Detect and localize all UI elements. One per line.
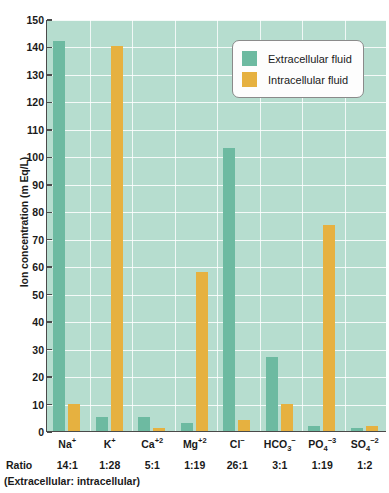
bar-extracellular	[53, 41, 65, 431]
y-axis-tick-label: 10	[32, 399, 47, 411]
y-axis-tick: 130	[26, 69, 47, 81]
x-axis-label: Mg+2	[174, 436, 217, 450]
y-axis-title: Ion concentration (m Eq/L)	[18, 112, 30, 332]
y-axis-tick: 20	[32, 371, 47, 383]
ratio-value: 5:1	[131, 459, 174, 471]
bar-intracellular	[153, 428, 165, 431]
y-axis-tick-label: 40	[32, 316, 47, 328]
legend-item-extracellular: Extracellular fluid	[242, 48, 352, 69]
ratio-row-label: Ratio	[6, 459, 32, 471]
y-axis-tick: 30	[32, 344, 47, 356]
y-axis-tick-mark	[47, 266, 52, 268]
y-axis-tick: 50	[32, 289, 47, 301]
y-axis-tick: 90	[32, 179, 47, 191]
legend-swatch-intracellular	[242, 72, 257, 87]
x-axis-label: HCO3−	[259, 436, 302, 453]
x-axis-labels: Na+K+Ca+2Mg+2Cl−HCO3−PO4−3SO4−2	[46, 436, 386, 454]
bar-extracellular	[181, 423, 193, 431]
x-axis-label: SO4−2	[344, 436, 387, 453]
bar-group	[132, 20, 175, 431]
y-axis-tick-label: 20	[32, 371, 47, 383]
y-axis-tick: 60	[32, 261, 47, 273]
bar-extracellular	[266, 357, 278, 431]
y-axis-tick-mark	[47, 404, 52, 406]
ratio-value: 14:1	[46, 459, 89, 471]
y-axis-tick: 110	[27, 124, 47, 136]
y-axis-tick-label: 140	[26, 41, 47, 53]
chart-legend: Extracellular fluid Intracellular fluid	[232, 40, 364, 98]
legend-swatch-extracellular	[242, 51, 257, 66]
bar-group	[175, 20, 218, 431]
bar-group	[90, 20, 133, 431]
y-axis-tick-label: 30	[32, 344, 47, 356]
legend-label-extracellular: Extracellular fluid	[268, 53, 352, 65]
bar-intracellular	[238, 420, 250, 431]
y-axis-tick-mark	[47, 349, 52, 351]
y-axis-tick-mark	[47, 431, 52, 433]
y-axis-tick: 150	[26, 14, 47, 26]
y-axis-tick-mark	[47, 47, 52, 49]
y-axis-tick-label: 50	[32, 289, 47, 301]
y-axis-tick-mark	[47, 19, 52, 21]
y-axis-tick-mark	[47, 294, 52, 296]
y-axis-tick: 40	[32, 316, 47, 328]
y-axis-tick: 70	[32, 234, 47, 246]
y-axis-tick-label: 70	[32, 234, 47, 246]
x-axis-label: Na+	[46, 436, 89, 450]
y-axis-tick-label: 130	[26, 69, 47, 81]
x-axis-label: Cl−	[216, 436, 259, 450]
y-axis-tick: 10	[32, 399, 47, 411]
bar-extracellular	[223, 148, 235, 431]
x-axis-label: PO4−3	[301, 436, 344, 453]
bar-extracellular	[351, 428, 363, 431]
y-axis-tick: 80	[32, 206, 47, 218]
y-axis-tick-mark	[47, 212, 52, 214]
y-axis-tick-label: 100	[26, 151, 47, 163]
y-axis-tick-mark	[47, 376, 52, 378]
legend-label-intracellular: Intracellular fluid	[268, 74, 348, 86]
y-axis-tick-label: 150	[26, 14, 47, 26]
x-axis-label: K+	[89, 436, 132, 450]
y-axis-tick-label: 110	[27, 124, 47, 136]
bar-intracellular	[366, 426, 378, 431]
y-axis-tick-mark	[47, 129, 52, 131]
bar-group	[47, 20, 90, 431]
ratio-value: 3:1	[259, 459, 302, 471]
ratio-value: 26:1	[216, 459, 259, 471]
bar-intracellular	[196, 272, 208, 431]
y-axis-tick-label: 60	[32, 261, 47, 273]
ratio-value: 1:19	[174, 459, 217, 471]
ratio-value: 1:28	[89, 459, 132, 471]
ratio-value: 1:19	[301, 459, 344, 471]
y-axis-tick-label: 80	[32, 206, 47, 218]
y-axis-tick-mark	[47, 321, 52, 323]
y-axis-tick-mark	[47, 74, 52, 76]
bar-intracellular	[68, 404, 80, 431]
y-axis-tick-mark	[47, 102, 52, 104]
y-axis-tick-mark	[47, 184, 52, 186]
y-axis-tick: 120	[26, 96, 47, 108]
y-axis-tick-label: 120	[26, 96, 47, 108]
bar-intracellular	[323, 225, 335, 431]
bar-intracellular	[111, 46, 123, 431]
ratio-value: 1:2	[344, 459, 387, 471]
ratio-caption: (Extracellular: intracellular)	[4, 475, 140, 487]
y-axis-tick: 100	[26, 151, 47, 163]
legend-item-intracellular: Intracellular fluid	[242, 69, 352, 90]
bar-extracellular	[308, 426, 320, 431]
ion-concentration-chart: Ion concentration (m Eq/L) 0102030405060…	[0, 0, 389, 493]
y-axis-tick-mark	[47, 157, 52, 159]
y-axis-tick-mark	[47, 239, 52, 241]
y-axis-tick-label: 90	[32, 179, 47, 191]
x-axis-label: Ca+2	[131, 436, 174, 450]
y-axis-tick: 140	[26, 41, 47, 53]
bar-intracellular	[281, 404, 293, 431]
bar-extracellular	[96, 417, 108, 431]
bar-extracellular	[138, 417, 150, 431]
